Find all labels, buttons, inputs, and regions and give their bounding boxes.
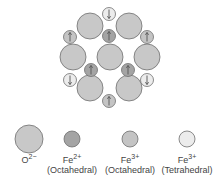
legend-symbol-oxygen — [15, 125, 43, 153]
oxygen-ion — [134, 44, 160, 70]
oxygen-ion — [77, 75, 103, 101]
legend-symbol-fe3-octahedral — [122, 131, 138, 147]
legend-symbol-fe2-octahedral — [64, 131, 80, 147]
oxygen-ion — [60, 44, 86, 70]
oxygen-ion — [77, 13, 103, 39]
legend-label-fe3-octahedral: Fe3+(Octahedral) — [105, 155, 155, 175]
oxygen-ion — [116, 75, 142, 101]
oxygen-ion — [116, 13, 142, 39]
oxygen-ion — [97, 44, 123, 70]
legend-label-fe3-tetrahedral: Fe3+(Tetrahedral) — [161, 155, 212, 175]
legend-label-oxygen: O2− — [22, 155, 37, 165]
legend-symbol-fe3-tetrahedral — [179, 131, 195, 147]
legend-label-fe2-octahedral: Fe2+(Octahedral) — [47, 155, 97, 175]
